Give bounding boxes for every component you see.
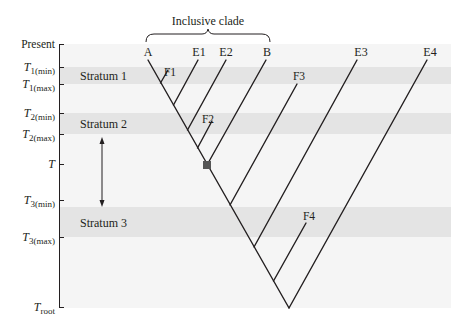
tick-label-t2max: T2(max) (22, 127, 55, 143)
fossil-label-f2: F2 (202, 113, 214, 125)
taxon-label-a: A (144, 45, 153, 59)
tick-label-t: T (48, 157, 56, 171)
tick-label-t1max: T1(max) (22, 77, 55, 93)
taxon-label-e4: E4 (423, 45, 436, 59)
fossil-label-f1: F1 (164, 66, 176, 78)
taxon-label-b: B (263, 45, 271, 59)
clade-node-square (203, 161, 211, 169)
taxon-label-e3: E3 (354, 45, 367, 59)
tick-label-t2min: T2(min) (24, 106, 55, 122)
tick-label-t3min: T3(min) (24, 193, 55, 209)
stratum-2-label: Stratum 2 (80, 117, 127, 131)
fossil-label-f4: F4 (303, 210, 315, 222)
tick-label-t3max: T3(max) (22, 230, 55, 246)
taxon-label-e1: E1 (192, 45, 205, 59)
taxon-label-e2: E2 (219, 45, 232, 59)
inclusive-clade-bracket (146, 29, 270, 42)
tick-label-present: Present (21, 38, 56, 50)
stratum-1-label: Stratum 1 (80, 69, 127, 83)
phylogeny-diagram: Stratum 1 Stratum 2 Stratum 3 Present T1… (0, 0, 465, 333)
stratum-3-label: Stratum 3 (80, 216, 127, 230)
inclusive-clade-label: Inclusive clade (172, 14, 244, 28)
fossil-label-f3: F3 (293, 70, 305, 82)
tick-label-t1min: T1(min) (24, 60, 55, 76)
tick-label-troot: Troot (34, 300, 56, 316)
